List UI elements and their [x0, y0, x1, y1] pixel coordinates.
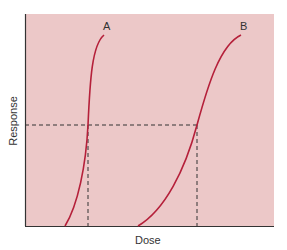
curve-a-label: A [103, 20, 110, 32]
dose-response-chart [0, 0, 287, 250]
curve-b-label: B [240, 20, 247, 32]
plot-area [25, 14, 274, 226]
y-axis-label: Response [7, 86, 19, 156]
x-axis-label: Dose [135, 234, 161, 246]
